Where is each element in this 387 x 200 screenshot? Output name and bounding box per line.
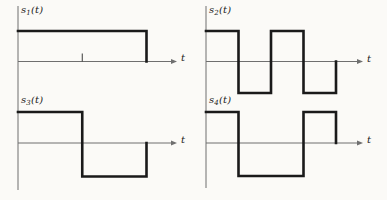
waveform-s4	[206, 112, 336, 176]
t-axis-label-s1: t	[181, 52, 185, 64]
signal-label-s3: s3(t)	[21, 94, 43, 106]
figure-canvas: s1(t)ts2(t)ts3(t)ts4(t)t	[0, 0, 387, 200]
subplot-s2	[206, 6, 363, 93]
subplot-s3	[18, 93, 177, 190]
t-axis-label-s4: t	[367, 134, 371, 146]
t-axis-arrowhead	[357, 140, 363, 145]
signal-label-s2: s2(t)	[209, 4, 231, 16]
signal-label-s4: s4(t)	[209, 94, 231, 106]
t-axis-label-s2: t	[367, 53, 371, 65]
signal-label-s1: s1(t)	[21, 4, 43, 16]
subplot-s1	[18, 6, 177, 93]
t-axis-arrowhead	[171, 140, 177, 145]
t-axis-label-s3: t	[181, 134, 185, 146]
subplot-s4	[206, 93, 363, 188]
waveform-s3	[18, 112, 147, 177]
t-axis-arrowhead	[171, 59, 177, 64]
t-axis-arrowhead	[357, 59, 363, 64]
waveform-plot-svg	[0, 0, 387, 200]
